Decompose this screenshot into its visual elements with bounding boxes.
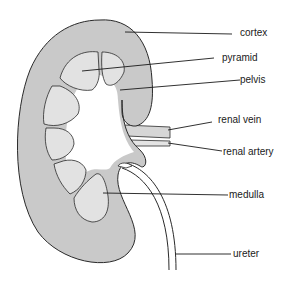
leader-cortex xyxy=(125,32,232,34)
leader-medulla xyxy=(103,193,228,195)
kidney-diagram xyxy=(0,0,284,287)
label-renal-vein: renal vein xyxy=(218,114,261,126)
label-medulla: medulla xyxy=(229,189,264,201)
label-pelvis: pelvis xyxy=(240,74,266,86)
leader-renal-vein xyxy=(168,122,212,130)
leader-renal-artery xyxy=(168,143,222,151)
label-ureter: ureter xyxy=(233,248,259,260)
label-renal-artery: renal artery xyxy=(223,146,274,158)
label-cortex: cortex xyxy=(240,27,267,39)
label-pyramid: pyramid xyxy=(222,52,258,64)
